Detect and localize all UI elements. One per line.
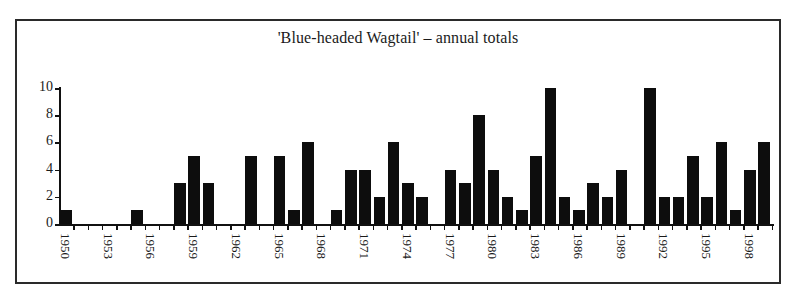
- bar-1950: [60, 210, 72, 224]
- x-tick: [116, 226, 118, 230]
- bar-1992: [659, 197, 671, 224]
- bar-1995: [701, 197, 713, 224]
- y-tick-label: 2: [29, 188, 53, 204]
- y-tick-label: 6: [29, 133, 53, 149]
- x-tick-label: 1998: [741, 233, 757, 259]
- x-tick: [686, 226, 688, 230]
- x-tick-label: 1959: [185, 233, 201, 259]
- x-tick: [472, 226, 474, 230]
- y-tick: [55, 224, 59, 226]
- x-tick-label: 1971: [356, 233, 372, 259]
- bar-1955: [131, 210, 143, 224]
- x-tick: [102, 226, 104, 230]
- x-tick: [301, 226, 303, 230]
- bar-1972: [374, 197, 386, 224]
- bar-1985: [559, 197, 571, 224]
- x-tick-label: 1953: [100, 233, 116, 259]
- bar-1965: [274, 156, 286, 224]
- bar-1966: [288, 210, 300, 224]
- x-tick-label: 1983: [527, 233, 543, 259]
- x-tick: [643, 226, 645, 230]
- x-tick: [159, 226, 161, 230]
- x-tick: [415, 226, 417, 230]
- x-tick: [373, 226, 375, 230]
- y-tick-label: 4: [29, 161, 53, 177]
- x-tick: [487, 226, 489, 230]
- bar-1970: [345, 170, 357, 224]
- bar-1998: [744, 170, 756, 224]
- x-tick-label: 1977: [442, 233, 458, 259]
- bar-1999: [758, 142, 770, 224]
- x-tick: [202, 226, 204, 230]
- x-tick: [700, 226, 702, 230]
- bar-1986: [573, 210, 585, 224]
- x-tick: [230, 226, 232, 230]
- bar-1981: [502, 197, 514, 224]
- bar-1959: [188, 156, 200, 224]
- bar-1975: [416, 197, 428, 224]
- x-tick: [173, 226, 175, 230]
- x-tick-label: 1974: [399, 233, 415, 259]
- y-tick: [55, 115, 59, 117]
- x-tick-label: 1956: [142, 233, 158, 259]
- bar-1996: [716, 142, 728, 224]
- x-tick: [330, 226, 332, 230]
- x-tick-label: 1968: [313, 233, 329, 259]
- x-tick: [586, 226, 588, 230]
- x-tick: [529, 226, 531, 230]
- y-tick-label: 10: [29, 79, 53, 95]
- x-tick: [401, 226, 403, 230]
- bar-1987: [587, 183, 599, 224]
- bar-chart-plot-area: 0246810195019531956195919621965196819711…: [0, 0, 796, 304]
- bar-1978: [459, 183, 471, 224]
- bar-1971: [359, 170, 371, 224]
- x-tick: [615, 226, 617, 230]
- y-tick-label: 0: [29, 215, 53, 231]
- x-tick: [515, 226, 517, 230]
- x-tick: [88, 226, 90, 230]
- x-tick: [672, 226, 674, 230]
- bar-1989: [616, 170, 628, 224]
- x-tick: [73, 226, 75, 230]
- bar-1958: [174, 183, 186, 224]
- x-tick: [558, 226, 560, 230]
- y-tick: [55, 170, 59, 172]
- y-tick: [55, 88, 59, 90]
- x-tick: [572, 226, 574, 230]
- x-tick: [244, 226, 246, 230]
- bar-1984: [545, 88, 557, 224]
- bar-1991: [644, 88, 656, 224]
- bar-1993: [673, 197, 685, 224]
- x-tick: [344, 226, 346, 230]
- bar-1983: [530, 156, 542, 224]
- x-tick: [729, 226, 731, 230]
- x-tick: [458, 226, 460, 230]
- x-tick-label: 1992: [655, 233, 671, 259]
- y-axis: [59, 87, 61, 225]
- bar-1979: [473, 115, 485, 224]
- bar-1980: [488, 170, 500, 224]
- x-tick: [743, 226, 745, 230]
- x-tick-label: 1995: [698, 233, 714, 259]
- bar-1994: [687, 156, 699, 224]
- y-tick-label: 8: [29, 106, 53, 122]
- x-tick-label: 1962: [228, 233, 244, 259]
- bar-1977: [445, 170, 457, 224]
- bar-1988: [602, 197, 614, 224]
- bar-1963: [245, 156, 257, 224]
- x-tick: [544, 226, 546, 230]
- x-tick: [145, 226, 147, 230]
- x-tick: [273, 226, 275, 230]
- x-tick: [444, 226, 446, 230]
- x-tick: [130, 226, 132, 230]
- bar-1997: [730, 210, 742, 224]
- x-tick: [216, 226, 218, 230]
- bar-1974: [402, 183, 414, 224]
- x-tick: [501, 226, 503, 230]
- x-tick: [316, 226, 318, 230]
- bar-1967: [302, 142, 314, 224]
- bar-1969: [331, 210, 343, 224]
- x-tick: [629, 226, 631, 230]
- x-tick: [358, 226, 360, 230]
- bar-1973: [388, 142, 400, 224]
